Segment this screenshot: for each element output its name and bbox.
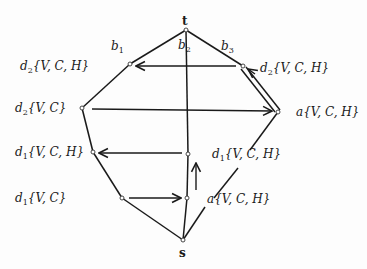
edge-b3	[186, 30, 243, 66]
node-center2	[185, 196, 189, 200]
node-right1	[241, 64, 245, 68]
node-t	[184, 28, 188, 32]
node-s	[181, 238, 185, 242]
node-left1	[128, 62, 132, 66]
label-left4: d1{V, C}	[15, 191, 66, 207]
label-left3: d1{V, C, H}	[15, 145, 84, 161]
lattice-diagram: t s b1 b2 b3 d2{V, C, H} d2{V, C, H} d2{…	[0, 0, 367, 269]
label-left2: d2{V, C}	[15, 101, 66, 117]
label-center1: d1{V, C, H}	[212, 147, 281, 163]
node-center1	[186, 152, 190, 156]
label-t: t	[182, 14, 188, 28]
edge-left-1-2	[82, 64, 130, 108]
arrow-left2-to-right2	[92, 109, 272, 111]
label-left1: d2{V, C, H}	[20, 59, 89, 75]
edge-b2-mid	[187, 154, 188, 198]
edge-right-2-lower	[250, 112, 278, 150]
edges	[82, 30, 280, 240]
label-b3: b3	[221, 39, 234, 55]
label-s: s	[179, 246, 186, 260]
label-b1: b1	[111, 39, 124, 55]
edge-left-4-s	[122, 198, 183, 240]
node-left2	[80, 106, 84, 110]
node-left3	[91, 150, 95, 154]
label-right1: d2{V, C, H}	[260, 61, 329, 77]
arrows	[92, 66, 272, 198]
nodes	[80, 28, 280, 242]
label-b2: b2	[178, 38, 191, 54]
label-right2: a{V, C, H}	[296, 105, 359, 119]
node-left4	[120, 196, 124, 200]
node-right2	[276, 110, 280, 114]
label-center2: a{V, C, H}	[207, 192, 270, 206]
edge-left-3-4	[93, 152, 122, 198]
